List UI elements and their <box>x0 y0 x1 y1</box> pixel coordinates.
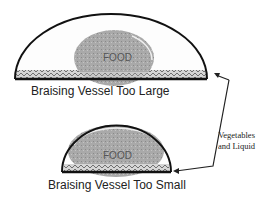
annotation-arrows <box>176 75 229 171</box>
arrow-head-top <box>214 73 220 78</box>
food-label-large: FOOD <box>103 52 132 63</box>
caption-small: Braising Vessel Too Small <box>48 178 186 192</box>
food-label-small: FOOD <box>103 150 132 161</box>
annotation-line-2: and Liquid <box>218 141 255 152</box>
large-vessel <box>15 14 207 86</box>
arrow-head-bottom <box>173 168 179 174</box>
annotation-text: Vegetables and Liquid <box>218 130 255 152</box>
diagram-canvas <box>0 0 270 204</box>
caption-large: Braising Vessel Too Large <box>31 84 170 98</box>
annotation-line-1: Vegetables <box>218 130 255 141</box>
